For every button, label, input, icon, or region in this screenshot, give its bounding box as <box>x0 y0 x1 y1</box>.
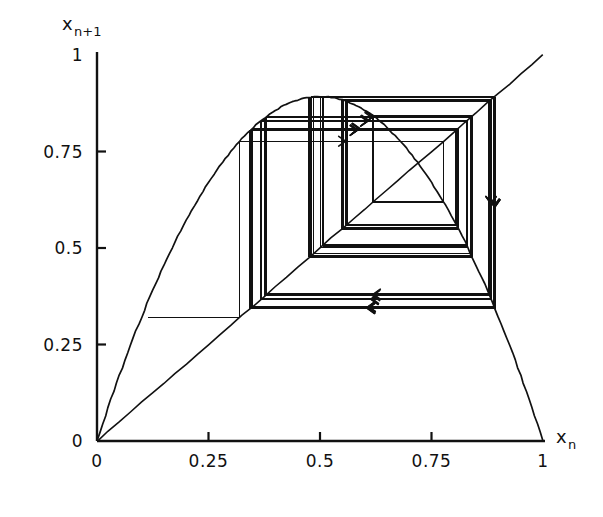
x-axis-ticks <box>209 432 432 441</box>
y-axis-label-name: x <box>62 13 73 34</box>
x-axis-label-subscript: n <box>568 437 576 452</box>
identity-line <box>97 55 542 442</box>
y-tick-label: 0 <box>72 431 83 451</box>
x-axis-label: x n <box>556 426 576 452</box>
x-tick-label: 0.75 <box>412 451 452 471</box>
map-curve <box>97 97 543 441</box>
cobweb-plot: 00.250.50.751 00.250.50.751 x n+1 x n <box>0 0 603 517</box>
y-axis-ticks <box>97 152 106 345</box>
x-axis-label-name: x <box>556 426 567 447</box>
x-tick-label: 0 <box>91 451 102 471</box>
y-tick-label: 0.75 <box>43 142 83 162</box>
x-tick-label: 1 <box>537 451 548 471</box>
y-axis-label-subscript: n+1 <box>74 24 101 39</box>
cobweb-orbit-path <box>148 97 495 318</box>
x-tick-label: 0.5 <box>306 451 335 471</box>
x-tick-label: 0.25 <box>189 451 229 471</box>
y-tick-label: 0.25 <box>43 335 83 355</box>
y-tick-label: 1 <box>72 45 83 65</box>
x-axis-tick-labels: 00.250.50.751 <box>91 451 548 471</box>
y-axis-label: x n+1 <box>62 13 101 39</box>
y-axis-tick-labels: 00.250.50.751 <box>43 45 83 451</box>
figure-canvas: 00.250.50.751 00.250.50.751 x n+1 x n <box>0 0 603 517</box>
y-tick-label: 0.5 <box>54 238 83 258</box>
